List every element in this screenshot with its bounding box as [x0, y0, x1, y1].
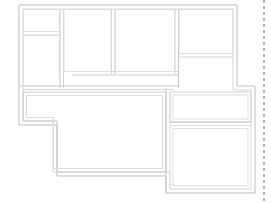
floor-plan-canvas [0, 0, 271, 203]
floor-plan-drawing [0, 0, 271, 203]
page-background [0, 0, 271, 203]
